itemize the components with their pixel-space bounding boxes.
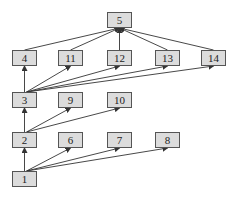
dependency-diagram: 5 4 11 12 13 14 3 9 10 2 6 7 8 1 [0, 0, 236, 197]
node-14: 14 [201, 50, 226, 66]
edge-1-to-7 [27, 148, 120, 171]
node-13: 13 [155, 50, 180, 66]
node-9: 9 [58, 92, 83, 108]
node-5: 5 [107, 12, 132, 28]
node-11: 11 [58, 50, 83, 66]
node-6: 6 [58, 132, 83, 148]
edge-13-to-5 [120, 28, 168, 50]
node-7: 7 [107, 132, 132, 148]
node-3: 3 [12, 92, 37, 108]
edge-3-to-14 [27, 66, 214, 92]
node-1: 1 [12, 171, 37, 187]
edge-14-to-5 [120, 28, 214, 50]
edge-4-to-5 [25, 28, 120, 50]
edge-2-to-9 [27, 108, 71, 132]
node-12: 12 [107, 50, 132, 66]
node-10: 10 [107, 92, 132, 108]
edge-11-to-5 [71, 28, 120, 50]
node-2: 2 [12, 132, 37, 148]
edge-3-to-12 [27, 66, 120, 92]
edge-2-to-10 [27, 108, 120, 132]
node-4: 4 [12, 50, 37, 66]
node-8: 8 [155, 132, 180, 148]
